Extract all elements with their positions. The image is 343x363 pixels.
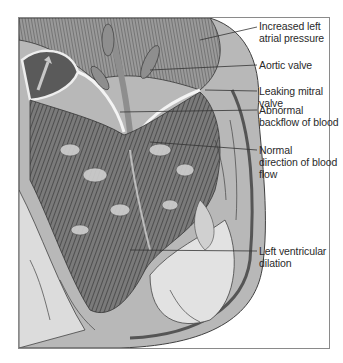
label-abnormal-backflow-of-blood: Abnormal backflow of blood (259, 104, 338, 128)
heart-illustration (0, 0, 343, 363)
label-aortic-valve: Aortic valve (259, 59, 312, 71)
label-normal-direction-of-blood-flow: Normal direction of blood flow (259, 144, 337, 180)
label-left-ventricular-dilation: Left ventricular dilation (259, 245, 326, 269)
label-increased-left-atrial-pressure: Increased left atrial pressure (259, 20, 324, 44)
